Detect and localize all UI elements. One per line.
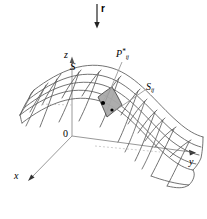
patch-label-sub: ij: [151, 86, 154, 93]
coordinate-axes: [28, 57, 196, 182]
point-label-Pij: P*ij: [116, 49, 129, 60]
surface-label-S: S: [70, 61, 76, 72]
x-axis: [28, 136, 72, 181]
surface-integral-figure: [0, 0, 207, 219]
vector-label-r: r: [101, 4, 105, 14]
leader-Sij: [116, 90, 145, 110]
origin-label: 0: [63, 129, 68, 139]
patch-label-Sij: Sij: [146, 82, 154, 93]
y-axis: [72, 136, 196, 156]
axis-label-x: x: [14, 171, 18, 181]
vector-r-arrow: [94, 4, 99, 29]
axis-label-y: y: [189, 157, 193, 167]
point-label-sub: ij: [126, 53, 129, 60]
surface-bottom-edge: [151, 170, 194, 188]
axis-label-z: z: [64, 50, 68, 60]
